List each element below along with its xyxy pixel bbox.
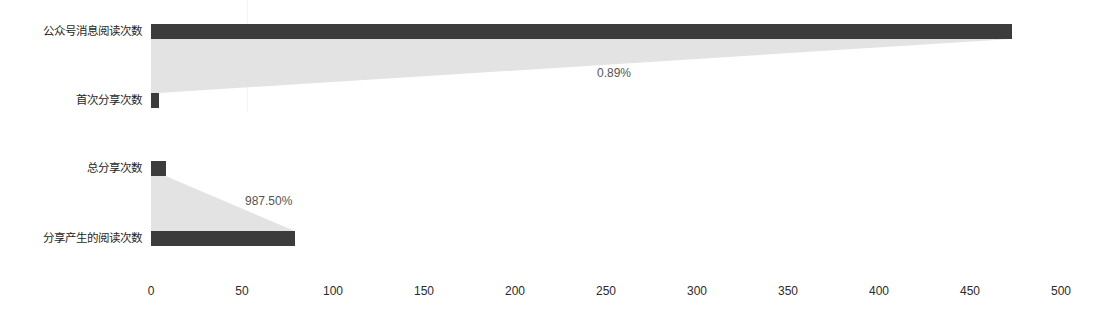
bar-share-generated-read-count[interactable] — [151, 231, 295, 246]
category-label-total-share-count: 总分享次数 — [0, 161, 142, 175]
x-tick-300: 300 — [667, 284, 727, 298]
x-tick-50: 50 — [212, 284, 272, 298]
plot-area: 公众号消息阅读次数 首次分享次数 总分享次数 分享产生的阅读次数 0.89% 9… — [0, 0, 1116, 328]
conversion-rate-label-group-2: 987.50% — [245, 194, 292, 208]
category-label-first-share-count: 首次分享次数 — [0, 93, 142, 107]
category-label-gongzhonghao-read-count: 公众号消息阅读次数 — [0, 24, 142, 38]
bar-first-share-count[interactable] — [151, 93, 159, 108]
x-tick-150: 150 — [394, 284, 454, 298]
conversion-rate-label-group-1: 0.89% — [597, 66, 631, 80]
funnel-chart: 公众号消息阅读次数 首次分享次数 总分享次数 分享产生的阅读次数 0.89% 9… — [0, 0, 1116, 328]
x-tick-450: 450 — [940, 284, 1000, 298]
x-tick-350: 350 — [758, 284, 818, 298]
x-tick-200: 200 — [485, 284, 545, 298]
funnel-polygon-group-1 — [151, 39, 1012, 93]
bar-total-share-count[interactable] — [151, 161, 166, 176]
funnel-connector-group-1 — [0, 0, 1116, 328]
x-tick-250: 250 — [576, 284, 636, 298]
x-tick-100: 100 — [303, 284, 363, 298]
x-tick-500: 500 — [1031, 284, 1091, 298]
category-label-share-generated-read-count: 分享产生的阅读次数 — [0, 231, 142, 245]
x-tick-0: 0 — [121, 284, 181, 298]
bar-gongzhonghao-read-count[interactable] — [151, 24, 1012, 39]
x-tick-400: 400 — [849, 284, 909, 298]
